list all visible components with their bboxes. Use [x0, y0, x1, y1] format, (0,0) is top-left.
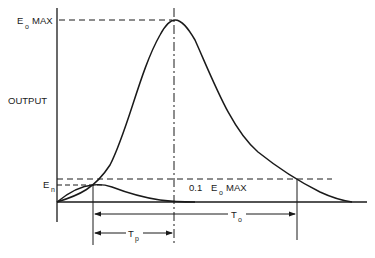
to-arrowhead-right — [289, 212, 296, 217]
eo-max-label-sub: o — [25, 23, 29, 30]
eo-max-label: E — [17, 15, 23, 26]
pulse-diagram: E o MAX OUTPUT E n 0.1 E o MAX T o T p — [0, 0, 375, 258]
tenth-eo-max-prefix: 0.1 — [189, 182, 202, 193]
tp-label: T — [128, 228, 134, 239]
tenth-eo-max-main: E — [211, 182, 217, 193]
to-label: T — [231, 209, 237, 220]
eo-max-label-suffix: MAX — [32, 15, 53, 26]
tenth-eo-max-suffix: MAX — [226, 182, 247, 193]
to-label-sub: o — [238, 216, 242, 223]
tp-arrowhead-left — [94, 231, 101, 236]
to-arrowhead-left — [94, 212, 101, 217]
output-pulse-curve — [57, 20, 352, 202]
tp-label-sub: p — [135, 235, 139, 243]
en-label: E — [43, 179, 49, 190]
en-label-sub: n — [51, 186, 55, 193]
tp-arrowhead-right — [166, 231, 173, 236]
tenth-eo-max-sub: o — [219, 189, 223, 196]
output-axis-label: OUTPUT — [8, 95, 47, 106]
